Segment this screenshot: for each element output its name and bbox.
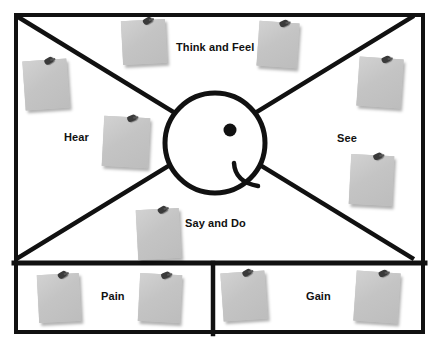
quadrant-label-say-and-do: Say and Do (185, 218, 246, 229)
quadrant-label-think-and-feel: Think and Feel (176, 42, 254, 53)
empathy-map-canvas: Think and FeelHearSeeSay and DoPainGain (0, 0, 438, 356)
panel-label-pain: Pain (101, 291, 125, 302)
sticky-note[interactable] (356, 57, 403, 109)
quadrant-label-hear: Hear (64, 132, 89, 143)
quadrant-label-see: See (337, 133, 357, 144)
sticky-note[interactable] (102, 116, 151, 168)
sticky-note[interactable] (256, 21, 299, 69)
sticky-note[interactable] (37, 273, 81, 323)
sticky-note[interactable] (22, 59, 69, 111)
sticky-note[interactable] (121, 19, 167, 65)
sticky-note[interactable] (353, 271, 400, 324)
sticky-note[interactable] (138, 273, 182, 323)
sticky-note[interactable] (136, 208, 182, 260)
sticky-note[interactable] (349, 154, 395, 206)
sticky-note[interactable] (220, 271, 267, 322)
panel-label-gain: Gain (306, 291, 331, 302)
